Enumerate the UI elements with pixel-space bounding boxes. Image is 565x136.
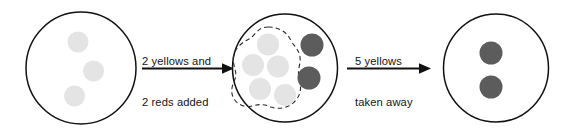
set-group-final xyxy=(444,14,549,122)
arrow-label-remove-line1: 5 yellows xyxy=(355,55,413,69)
set-outline-final xyxy=(444,14,549,122)
arrow-label-remove: 5 yellows taken away xyxy=(355,28,413,136)
diagram-canvas xyxy=(0,0,565,136)
arrow-label-add: 2 yellows and 2 reds added xyxy=(142,28,211,136)
arrow-label-remove-line2: taken away xyxy=(355,96,413,110)
set-group-after-addition xyxy=(232,14,338,122)
arrow-label-add-line1: 2 yellows and xyxy=(142,55,211,69)
yellow-counter xyxy=(83,61,104,82)
set-group-initial xyxy=(26,12,136,124)
counter-sets-diagram: 2 yellows and 2 reds added 5 yellows tak… xyxy=(0,0,565,136)
red-counter xyxy=(480,76,503,99)
yellow-counter xyxy=(249,78,271,100)
yellow-counter xyxy=(267,56,289,78)
red-counter xyxy=(480,42,503,65)
set-outline-initial xyxy=(26,12,136,124)
yellow-counter xyxy=(64,86,85,107)
arrow-head-icon xyxy=(419,63,431,74)
red-counter xyxy=(298,67,321,90)
yellow-counter xyxy=(274,84,296,106)
yellow-counter xyxy=(242,54,264,76)
red-counter xyxy=(301,34,324,57)
arrow-label-add-line2: 2 reds added xyxy=(142,96,211,110)
yellow-counter xyxy=(68,32,89,53)
yellow-counter xyxy=(257,34,279,56)
